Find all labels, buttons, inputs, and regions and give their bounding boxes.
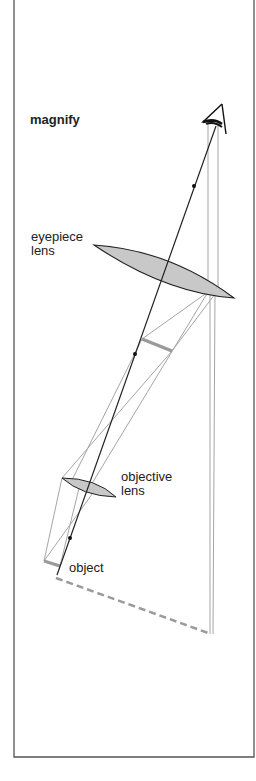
objective-label-line2: lens (121, 484, 145, 498)
objective-label-line1: objective (121, 470, 172, 484)
object-label: object (69, 561, 104, 575)
optical-axis (57, 126, 216, 575)
diagram-title: magnify (30, 113, 80, 127)
eyepiece-label-line2: lens (31, 244, 55, 258)
object-bar (44, 561, 60, 566)
eyepiece-label-line1: eyepiece (31, 230, 83, 244)
light-rays (44, 122, 218, 634)
virtual-image-dashed (56, 578, 211, 634)
objective-lens (62, 478, 116, 497)
focal-point-dot (68, 536, 72, 540)
focal-point-dot (192, 184, 196, 188)
intermediate-image (142, 339, 172, 351)
focal-point-dot (133, 352, 137, 356)
